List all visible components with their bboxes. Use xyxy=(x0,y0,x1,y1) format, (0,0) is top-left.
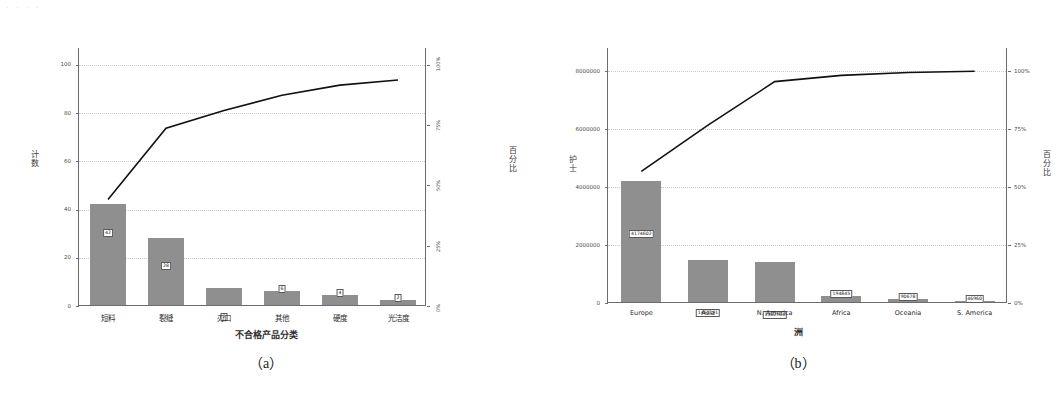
plot-wrap-b: 护士 百分比 020000004000000600000080000000%25… xyxy=(532,0,1064,350)
x-axis-title-a: 不合格产品分类 xyxy=(0,328,532,341)
x-axis-category-label: 硬度 xyxy=(333,312,347,323)
y-axis-tick-mark-left xyxy=(76,306,79,307)
y-axis-tick-right: 50% xyxy=(435,180,441,191)
y-axis-tick-mark-right xyxy=(1008,187,1011,188)
x-axis-category-label: S. America xyxy=(957,309,992,317)
y-axis-title-right-b: 百分比 xyxy=(1042,150,1052,177)
y-axis-tick-left: 100 xyxy=(61,61,72,67)
plot-area-a: 0204060801000%25%50%75%100%42短料28裂缝7刃口6其… xyxy=(78,48,426,306)
y-axis-tick-mark-right xyxy=(1008,303,1011,304)
y-axis-title-left-a: 计数 xyxy=(30,150,40,168)
x-axis-category-label: 光洁度 xyxy=(388,312,409,323)
y-axis-tick-mark-right xyxy=(1008,245,1011,246)
y-axis-title-left-b: 护士 xyxy=(568,155,578,173)
x-axis-category-label: Oceania xyxy=(895,309,922,317)
cumulative-line-chart xyxy=(79,48,427,306)
y-axis-tick-mark-right xyxy=(427,246,430,247)
y-axis-tick-left: 6000000 xyxy=(576,126,601,132)
y-axis-tick-left: 40 xyxy=(64,206,71,212)
x-axis-category-label: 其他 xyxy=(275,312,289,323)
y-axis-tick-right: 25% xyxy=(435,241,441,252)
y-axis-tick-right: 0% xyxy=(435,304,441,312)
plot-wrap-a: 计数 百分比 0204060801000%25%50%75%100%42短料28… xyxy=(0,0,532,350)
cumulative-percent-line xyxy=(641,71,974,171)
figure-caption-a: （a） xyxy=(0,352,532,372)
x-axis-category-label: Africa xyxy=(832,309,851,317)
y-axis-tick-mark-right xyxy=(1008,71,1011,72)
figure-page: · · · · 计数 百分比 0204060801000%25%50%75%10… xyxy=(0,0,1064,401)
y-axis-tick-mark-right xyxy=(427,185,430,186)
y-axis-tick-right: 50% xyxy=(1014,184,1026,190)
y-axis-tick-left: 80 xyxy=(64,110,71,116)
y-axis-tick-right: 25% xyxy=(1014,242,1026,248)
y-axis-tick-left: 4000000 xyxy=(576,184,601,190)
y-axis-tick-left: 60 xyxy=(64,158,71,164)
x-axis-category-label: 裂缝 xyxy=(159,312,173,323)
y-axis-tick-right: 100% xyxy=(435,57,441,71)
y-axis-tick-left: 0 xyxy=(597,300,601,306)
x-axis-category-label: 刃口 xyxy=(217,312,231,323)
x-axis-category-label: N. America xyxy=(757,309,793,317)
figure-a: 计数 百分比 0204060801000%25%50%75%100%42短料28… xyxy=(0,0,532,401)
y-axis-tick-mark-left xyxy=(605,303,608,304)
y-axis-title-right-a: 百分比 xyxy=(508,146,518,173)
x-axis-title-b: 洲 xyxy=(532,325,1064,338)
y-axis-tick-mark-right xyxy=(427,306,430,307)
cumulative-percent-line xyxy=(108,80,398,199)
x-axis-category-label: Europe xyxy=(630,309,653,317)
y-axis-tick-right: 75% xyxy=(435,120,441,131)
y-axis-tick-right: 75% xyxy=(1014,126,1026,132)
y-axis-tick-left: 2000000 xyxy=(576,242,601,248)
y-axis-tick-mark-right xyxy=(427,125,430,126)
y-axis-tick-right: 100% xyxy=(1014,68,1030,74)
y-axis-tick-mark-right xyxy=(427,65,430,66)
y-axis-tick-mark-right xyxy=(1008,129,1011,130)
x-axis-category-label: Asia xyxy=(701,309,715,317)
y-axis-tick-left: 20 xyxy=(64,254,71,260)
x-axis-category-label: 短料 xyxy=(101,312,115,323)
figure-b: 护士 百分比 020000004000000600000080000000%25… xyxy=(532,0,1064,401)
plot-area-b: 020000004000000600000080000000%25%50%75%… xyxy=(607,48,1007,303)
y-axis-tick-left: 8000000 xyxy=(576,68,601,74)
y-axis-tick-left: 0 xyxy=(68,303,72,309)
y-axis-tick-right: 0% xyxy=(1014,300,1023,306)
cumulative-line-chart xyxy=(608,48,1008,303)
figure-caption-b: （b） xyxy=(532,352,1064,372)
